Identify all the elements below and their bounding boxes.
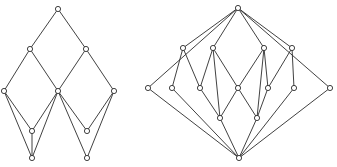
graph-node xyxy=(83,46,88,51)
graph-node xyxy=(327,85,332,90)
graph-edge xyxy=(183,8,238,48)
graph-edge xyxy=(86,49,114,91)
graph-edge xyxy=(213,8,238,48)
graph-node xyxy=(27,46,32,51)
graph-node xyxy=(55,6,60,11)
graph-edge xyxy=(4,49,30,91)
graph-node xyxy=(84,128,89,133)
graph-edge xyxy=(264,48,268,88)
graph-node xyxy=(265,85,270,90)
hasse-diagrams-canvas xyxy=(0,0,337,167)
graph-node xyxy=(29,155,34,160)
graph-node xyxy=(145,85,150,90)
graph-edge xyxy=(238,8,330,88)
graph-node xyxy=(1,88,6,93)
graph-edge xyxy=(238,8,292,48)
graph-node xyxy=(291,85,296,90)
graph-edge xyxy=(239,88,330,158)
graph-edge xyxy=(172,88,239,158)
graph-node xyxy=(261,45,266,50)
graph-edge xyxy=(200,48,213,88)
node-group xyxy=(1,6,116,160)
right-hasse-diagram xyxy=(145,5,332,160)
graph-node xyxy=(29,128,34,133)
graph-node xyxy=(111,88,116,93)
graph-edge xyxy=(30,9,58,49)
graph-edge xyxy=(148,88,239,158)
graph-node xyxy=(197,85,202,90)
graph-edge xyxy=(172,48,183,88)
graph-edge xyxy=(58,49,86,91)
graph-node xyxy=(236,155,241,160)
graph-edge xyxy=(238,8,264,48)
left-hasse-diagram xyxy=(1,6,116,160)
graph-edge xyxy=(183,48,200,88)
graph-node xyxy=(180,45,185,50)
figure-root xyxy=(0,0,337,167)
graph-node xyxy=(84,155,89,160)
graph-edge xyxy=(148,8,238,88)
graph-edge xyxy=(58,9,86,49)
graph-node xyxy=(217,115,222,120)
graph-edge xyxy=(268,48,292,88)
graph-edge xyxy=(238,88,257,118)
edge-group xyxy=(4,9,114,158)
graph-node xyxy=(254,115,259,120)
graph-node xyxy=(235,5,240,10)
edge-group xyxy=(148,8,330,158)
graph-node xyxy=(289,45,294,50)
graph-edge xyxy=(292,48,294,88)
graph-edge xyxy=(239,88,294,158)
graph-edge xyxy=(30,49,58,91)
graph-node xyxy=(235,85,240,90)
graph-edge xyxy=(238,48,264,88)
graph-edge xyxy=(213,48,220,118)
graph-node xyxy=(55,88,60,93)
graph-edge xyxy=(220,118,239,158)
graph-edge xyxy=(220,88,238,118)
graph-node xyxy=(210,45,215,50)
graph-node xyxy=(169,85,174,90)
